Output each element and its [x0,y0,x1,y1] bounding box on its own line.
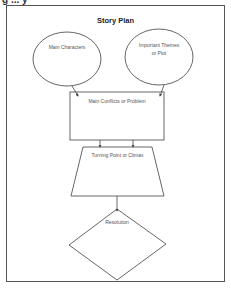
conflicts-label: Main Conflicts or Problem [70,98,164,105]
edge-themes-to-conflicts [160,85,164,96]
resolution-label: Resolution [87,219,147,226]
themes-plot-label-line1: Important Themes [125,42,193,49]
themes-plot-ellipse [125,29,193,85]
main-characters-label: Main Characters [37,44,97,51]
themes-plot-label-line2: or Plot [125,50,193,57]
page-title: Story Plan [0,16,231,25]
main-characters-ellipse [33,32,101,86]
diagram-canvas [0,0,231,288]
edge-characters-to-conflicts [72,86,78,96]
climax-label: Turning Point or Climax [80,152,155,159]
